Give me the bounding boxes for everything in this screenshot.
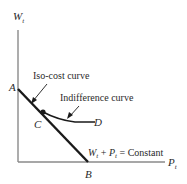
indifference-label: Indifference curve	[60, 92, 134, 103]
iso-cost-arrow	[31, 84, 47, 104]
tangency-point-c	[40, 109, 45, 114]
constraint-equation: Wt + Pt = Constant	[88, 147, 163, 160]
isocost-indifference-diagram: Wt Pt A B C D Iso-cost curve Indifferenc…	[0, 0, 187, 184]
point-label-d: D	[93, 116, 102, 128]
y-axis-label: Wt	[13, 10, 25, 25]
indifference-arrow	[67, 106, 79, 119]
x-axis-label: Pt	[167, 156, 178, 171]
point-label-a: A	[8, 81, 16, 93]
point-label-c: C	[34, 118, 42, 130]
iso-cost-label: Iso-cost curve	[33, 70, 90, 81]
point-label-b: B	[85, 168, 92, 180]
